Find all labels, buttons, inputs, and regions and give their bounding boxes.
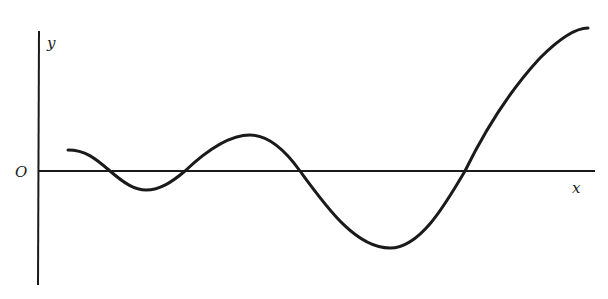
y-axis-label: y [46,34,56,52]
x-axis-label: x [572,179,581,197]
function-plot: y O x [0,0,608,299]
origin-label: O [15,163,27,181]
function-curve [68,28,588,248]
y-axis [38,31,39,285]
